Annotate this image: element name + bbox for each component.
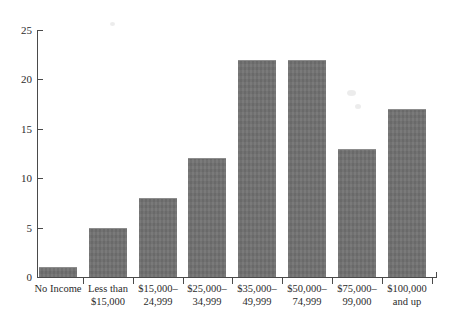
y-tick-20 bbox=[38, 79, 43, 80]
x-axis-line bbox=[37, 277, 437, 278]
x-axis-label-line1: $25,000– bbox=[187, 283, 226, 294]
x-axis-label-line2: and up bbox=[375, 296, 439, 309]
y-axis-label-5: 5 bbox=[6, 223, 32, 234]
y-axis-label-20: 20 bbox=[6, 74, 32, 85]
bar bbox=[89, 228, 127, 277]
y-tick-15 bbox=[38, 129, 43, 130]
y-axis-label-0: 0 bbox=[6, 272, 32, 283]
y-tick-5 bbox=[38, 228, 43, 229]
bar bbox=[39, 267, 77, 277]
x-axis-label: $100,000and up bbox=[375, 283, 439, 308]
x-axis-label-line1: $75,000– bbox=[337, 283, 376, 294]
x-axis-label-line1: $35,000– bbox=[237, 283, 276, 294]
bar bbox=[388, 109, 426, 277]
y-axis-label-15: 15 bbox=[6, 124, 32, 135]
x-axis-label-line1: No Income bbox=[35, 283, 82, 294]
y-axis-label-25: 25 bbox=[6, 25, 32, 36]
bar-chart: 0 5 10 15 20 25 No IncomeLess than$15,00… bbox=[0, 0, 454, 325]
y-axis-label-10: 10 bbox=[6, 173, 32, 184]
bar bbox=[338, 149, 376, 277]
scan-blot bbox=[355, 104, 361, 109]
scan-blot bbox=[110, 22, 115, 26]
x-axis-label-line1: $50,000– bbox=[287, 283, 326, 294]
bar bbox=[238, 60, 276, 277]
scan-blot bbox=[347, 90, 356, 96]
y-tick-10 bbox=[38, 178, 43, 179]
bar bbox=[288, 60, 326, 277]
y-tick-25 bbox=[38, 30, 43, 31]
x-axis-label-line1: $100,000 bbox=[387, 283, 426, 294]
bar bbox=[139, 198, 177, 277]
x-axis-label-line1: $15,000– bbox=[138, 283, 177, 294]
bar bbox=[188, 158, 226, 277]
x-axis-right-cap bbox=[436, 272, 437, 278]
y-axis-line bbox=[37, 30, 38, 278]
y-tick-0 bbox=[38, 277, 43, 278]
x-axis-label-line1: Less than bbox=[88, 283, 128, 294]
